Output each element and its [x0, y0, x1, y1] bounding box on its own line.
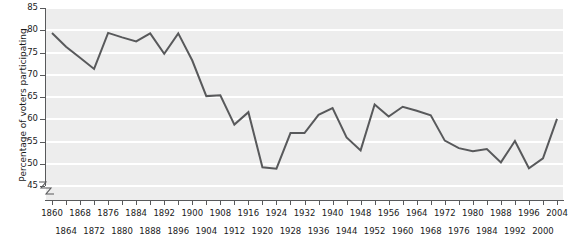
x-tick-label: 1964 — [402, 208, 432, 218]
x-tick — [333, 200, 334, 205]
x-tick-label: 1952 — [360, 226, 390, 236]
x-tick-label: 1956 — [374, 208, 404, 218]
x-tick — [459, 200, 460, 205]
x-tick-label: 1908 — [205, 208, 235, 218]
x-tick-label: 1896 — [163, 226, 193, 236]
y-tick — [40, 75, 45, 76]
x-tick-label: 1996 — [514, 208, 544, 218]
plot-area — [46, 8, 563, 200]
x-tick-label: 1920 — [247, 226, 277, 236]
x-tick — [445, 200, 446, 205]
x-tick — [501, 200, 502, 205]
x-tick-label: 1980 — [458, 208, 488, 218]
voter-turnout-line-chart: Percentage of voters participating 45505… — [0, 0, 578, 248]
x-tick — [389, 200, 390, 205]
x-tick — [515, 200, 516, 205]
x-tick — [375, 200, 376, 205]
x-tick — [543, 200, 544, 205]
x-tick — [178, 200, 179, 205]
x-tick — [248, 200, 249, 205]
y-tick-label: 85 — [12, 2, 38, 12]
x-tick-label: 1960 — [388, 226, 418, 236]
x-tick-label: 1940 — [318, 208, 348, 218]
x-tick-label: 1868 — [65, 208, 95, 218]
series-line — [46, 8, 563, 200]
x-tick — [487, 200, 488, 205]
x-tick — [94, 200, 95, 205]
x-tick-label: 1900 — [177, 208, 207, 218]
x-tick — [557, 200, 558, 205]
x-tick — [276, 200, 277, 205]
y-tick-label: 80 — [12, 24, 38, 34]
x-tick-label: 1932 — [290, 208, 320, 218]
x-tick — [66, 200, 67, 205]
x-tick — [319, 200, 320, 205]
x-tick — [150, 200, 151, 205]
x-tick-label: 1892 — [149, 208, 179, 218]
x-tick — [108, 200, 109, 205]
x-tick — [206, 200, 207, 205]
x-tick — [290, 200, 291, 205]
x-tick — [80, 200, 81, 205]
y-tick-label: 60 — [12, 113, 38, 123]
x-tick — [220, 200, 221, 205]
x-tick — [136, 200, 137, 205]
x-tick-label: 1864 — [51, 226, 81, 236]
x-tick-label: 1988 — [486, 208, 516, 218]
y-tick-label: 55 — [12, 136, 38, 146]
x-tick-label: 1992 — [500, 226, 530, 236]
y-tick — [40, 97, 45, 98]
x-tick — [417, 200, 418, 205]
y-tick — [40, 30, 45, 31]
x-tick-label: 2000 — [528, 226, 558, 236]
x-tick-label: 1968 — [416, 226, 446, 236]
x-tick-label: 1904 — [191, 226, 221, 236]
x-tick-label: 1928 — [275, 226, 305, 236]
x-tick-label: 1916 — [233, 208, 263, 218]
x-tick — [262, 200, 263, 205]
x-tick-label: 1944 — [332, 226, 362, 236]
y-tick — [40, 164, 45, 165]
y-tick — [40, 53, 45, 54]
y-tick — [40, 142, 45, 143]
x-tick-label: 1924 — [261, 208, 291, 218]
x-tick — [403, 200, 404, 205]
x-tick-label: 1884 — [121, 208, 151, 218]
x-tick-label: 1880 — [107, 226, 137, 236]
x-tick — [192, 200, 193, 205]
x-tick-label: 2004 — [542, 208, 572, 218]
axis-break-icon — [38, 181, 54, 195]
y-tick-label: 45 — [12, 180, 38, 190]
x-tick — [361, 200, 362, 205]
x-tick — [52, 200, 53, 205]
x-tick-label: 1860 — [37, 208, 67, 218]
x-tick-label: 1972 — [430, 208, 460, 218]
x-tick — [529, 200, 530, 205]
data-line — [52, 33, 557, 169]
y-tick-label: 70 — [12, 69, 38, 79]
x-tick-label: 1876 — [93, 208, 123, 218]
x-tick — [431, 200, 432, 205]
x-tick — [164, 200, 165, 205]
y-tick — [40, 119, 45, 120]
x-tick — [122, 200, 123, 205]
y-tick-label: 65 — [12, 91, 38, 101]
x-tick — [305, 200, 306, 205]
y-tick — [40, 8, 45, 9]
x-tick — [473, 200, 474, 205]
x-tick-label: 1984 — [472, 226, 502, 236]
x-tick — [234, 200, 235, 205]
x-tick-label: 1912 — [219, 226, 249, 236]
x-tick-label: 1888 — [135, 226, 165, 236]
y-tick-label: 50 — [12, 158, 38, 168]
x-tick — [347, 200, 348, 205]
x-tick-label: 1936 — [304, 226, 334, 236]
y-tick-label: 75 — [12, 47, 38, 57]
x-tick-label: 1948 — [346, 208, 376, 218]
x-tick-label: 1976 — [444, 226, 474, 236]
x-tick-label: 1872 — [79, 226, 109, 236]
y-axis-line — [45, 8, 46, 186]
